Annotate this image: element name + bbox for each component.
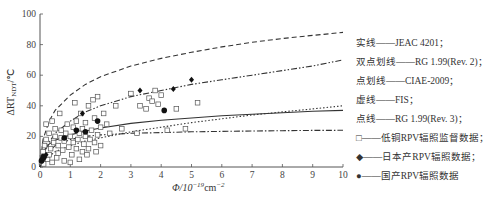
marker-open-square bbox=[74, 146, 79, 151]
marker-open-square bbox=[101, 111, 106, 116]
y-tick-label: 20 bbox=[27, 131, 37, 141]
y-tick-label: 80 bbox=[27, 40, 37, 50]
marker-filled-diamond bbox=[189, 77, 194, 83]
marker-open-square bbox=[50, 119, 55, 124]
x-tick-label: 5 bbox=[189, 170, 194, 180]
data-points bbox=[39, 77, 200, 166]
marker-open-square bbox=[98, 125, 103, 130]
marker-open-square bbox=[56, 151, 61, 156]
legend-item-rg-rev2: 双点划线——RG 1.99(Rev. 2)； bbox=[356, 53, 489, 72]
marker-open-square bbox=[68, 134, 73, 139]
marker-open-square bbox=[107, 131, 112, 136]
x-tick-label: 8 bbox=[280, 170, 285, 180]
marker-filled-circle bbox=[40, 155, 46, 161]
marker-open-square bbox=[150, 99, 155, 104]
marker-filled-circle bbox=[83, 129, 89, 135]
marker-open-square bbox=[86, 146, 91, 151]
marker-open-square bbox=[44, 137, 49, 142]
marker-open-square bbox=[65, 122, 70, 127]
marker-open-square bbox=[88, 137, 93, 142]
y-tick-label: 60 bbox=[27, 70, 37, 80]
marker-open-square bbox=[77, 157, 82, 162]
marker-filled-diamond bbox=[137, 88, 142, 94]
marker-open-square bbox=[70, 152, 75, 157]
x-tick-label: 1 bbox=[68, 170, 73, 180]
legend-item-rg-rev3: 点线——RG 1.99(Rev. 3)； bbox=[356, 110, 489, 129]
marker-open-square bbox=[48, 146, 53, 151]
marker-open-square bbox=[91, 97, 96, 102]
marker-open-square bbox=[57, 111, 62, 116]
x-tick-label: 3 bbox=[129, 170, 134, 180]
marker-open-square bbox=[63, 131, 68, 136]
marker-open-square bbox=[66, 145, 71, 150]
marker-open-square bbox=[86, 104, 91, 109]
curve-fis bbox=[40, 32, 343, 167]
marker-open-square bbox=[59, 128, 64, 133]
marker-open-square bbox=[53, 126, 58, 131]
x-tick-label: 0 bbox=[38, 170, 43, 180]
marker-open-square bbox=[68, 160, 73, 165]
marker-open-square bbox=[165, 128, 170, 133]
marker-open-square bbox=[82, 142, 87, 147]
marker-open-square bbox=[195, 100, 200, 105]
marker-open-square bbox=[120, 126, 125, 131]
y-tick-label: 0 bbox=[31, 162, 36, 172]
marker-open-square bbox=[174, 107, 179, 112]
x-tick-label: 4 bbox=[159, 170, 164, 180]
legend-item-low-cu: □——低铜RPV辐照监督数据； bbox=[356, 129, 489, 148]
marker-open-square bbox=[83, 134, 88, 139]
marker-open-square bbox=[95, 94, 100, 99]
marker-open-square bbox=[83, 120, 88, 125]
marker-open-square bbox=[156, 102, 161, 107]
marker-filled-circle bbox=[95, 118, 101, 124]
marker-open-square bbox=[159, 93, 164, 98]
marker-open-square bbox=[94, 149, 99, 154]
marker-open-square bbox=[53, 134, 58, 139]
marker-filled-circle bbox=[61, 135, 67, 141]
legend-item-jeac: 实线——JEAC 4201； bbox=[356, 34, 489, 53]
marker-open-square bbox=[60, 148, 65, 153]
y-axis-label: ΔRTNDT/℃ bbox=[5, 69, 18, 116]
y-tick-label: 100 bbox=[22, 9, 37, 19]
marker-open-square bbox=[129, 91, 134, 96]
curve-rg-1-99-rev-2- bbox=[40, 60, 343, 167]
marker-open-square bbox=[44, 122, 49, 127]
marker-open-square bbox=[73, 100, 78, 105]
marker-open-square bbox=[62, 159, 67, 164]
y-axis-title: ΔRTNDT/℃ bbox=[5, 69, 18, 116]
marker-open-square bbox=[153, 88, 158, 93]
marker-open-square bbox=[183, 126, 188, 131]
marker-open-square bbox=[98, 143, 103, 148]
marker-open-square bbox=[95, 133, 100, 138]
legend-item-domestic: ●——国产RPV辐照数据 bbox=[356, 167, 489, 186]
marker-open-square bbox=[47, 131, 52, 136]
marker-open-square bbox=[104, 122, 109, 127]
marker-open-square bbox=[56, 143, 61, 148]
curves bbox=[40, 32, 343, 167]
marker-open-square bbox=[74, 119, 79, 124]
marker-open-square bbox=[54, 156, 59, 161]
marker-open-square bbox=[71, 140, 76, 145]
legend-item-japan: ◆——日本产RPV辐照数据； bbox=[356, 148, 489, 167]
marker-open-square bbox=[76, 137, 81, 142]
legend-item-ciae: 点划线——CIAE-2009； bbox=[356, 72, 489, 91]
marker-open-square bbox=[144, 107, 149, 112]
marker-open-square bbox=[89, 128, 94, 133]
y-tick-label: 40 bbox=[27, 101, 37, 111]
marker-filled-diamond bbox=[171, 86, 176, 92]
marker-filled-circle bbox=[74, 127, 80, 133]
marker-open-square bbox=[50, 160, 55, 165]
x-tick-label: 10 bbox=[338, 170, 348, 180]
marker-open-square bbox=[51, 140, 56, 145]
x-tick-label: 9 bbox=[310, 170, 315, 180]
x-tick-label: 7 bbox=[250, 170, 255, 180]
marker-open-square bbox=[113, 104, 118, 109]
marker-open-square bbox=[85, 152, 90, 157]
marker-open-square bbox=[42, 143, 47, 148]
marker-open-square bbox=[80, 149, 85, 154]
marker-filled-circle bbox=[161, 108, 167, 114]
x-axis-title: Φ/10−19cm−2 bbox=[172, 181, 225, 193]
x-tick-label: 2 bbox=[98, 170, 103, 180]
marker-open-square bbox=[92, 140, 97, 145]
marker-open-square bbox=[138, 104, 143, 109]
